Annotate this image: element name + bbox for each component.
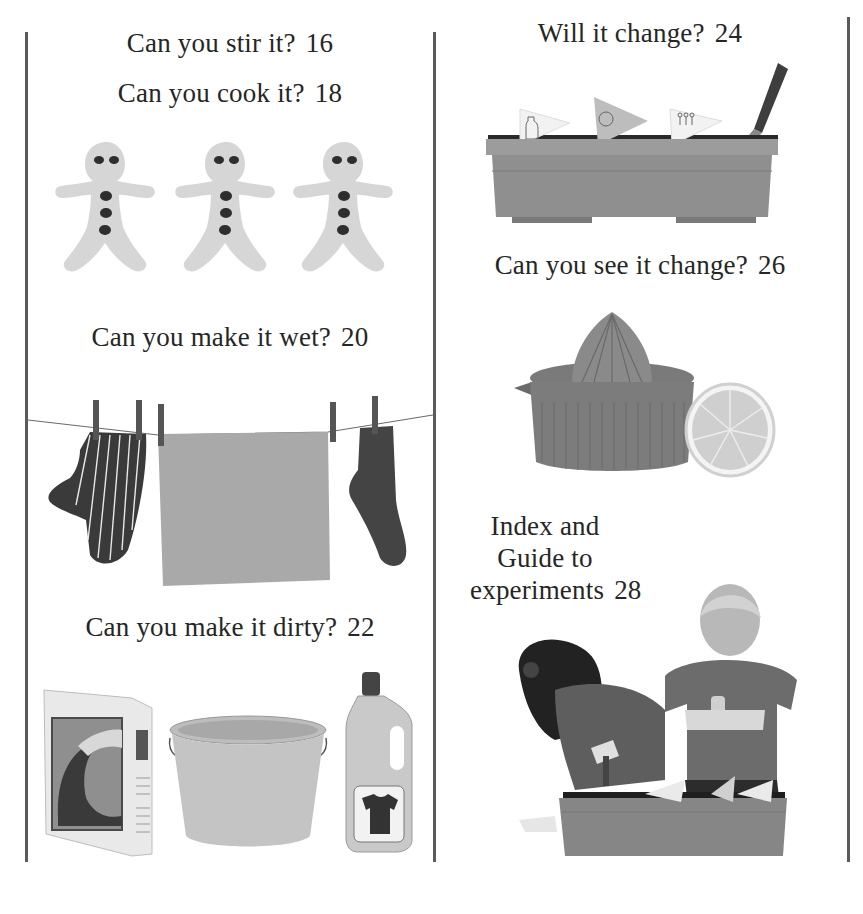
entry-page-number: 20 (341, 322, 368, 352)
column-rule-right (847, 17, 850, 862)
oven-mitt-icon (48, 432, 146, 564)
entry-make-it-dirty[interactable]: Can you make it dirty?22 (30, 612, 430, 643)
gingerbread-man-icon (175, 142, 275, 271)
clothespin-icon (136, 400, 142, 440)
entry-title: Can you make it wet? (92, 322, 331, 352)
sock-icon (349, 426, 406, 566)
lemon-half-icon (686, 384, 774, 476)
entry-page-number: 18 (315, 78, 342, 108)
gingerbread-man-icon (55, 142, 155, 271)
entry-make-it-wet[interactable]: Can you make it wet?20 (30, 322, 430, 353)
entry-title: Can you cook it? (118, 78, 305, 108)
planter-box-illustration (482, 55, 802, 230)
dish-towel-icon (158, 432, 330, 586)
entry-page-number: 24 (715, 18, 742, 48)
entry-page-number: 26 (758, 250, 785, 280)
entry-page-number: 16 (306, 28, 333, 58)
clothespin-icon (330, 402, 336, 442)
entry-title: Can you see it change? (495, 250, 748, 280)
bucket-icon (169, 716, 326, 847)
juicer-illustration (512, 312, 777, 482)
entry-title: Can you stir it? (127, 28, 296, 58)
entry-title-line-1: Index and (470, 510, 620, 542)
gingerbread-man-icon (293, 142, 393, 271)
trowel-icon (744, 63, 788, 145)
detergent-bottle-icon (346, 672, 412, 852)
clothespin-icon (372, 396, 378, 434)
cleaning-items-illustration (40, 668, 420, 858)
entry-title: Can you make it dirty? (85, 612, 337, 642)
entry-will-it-change[interactable]: Will it change?24 (440, 18, 840, 49)
entry-stir-it[interactable]: Can you stir it?16 (30, 28, 430, 59)
planter-box-icon (559, 776, 787, 856)
entry-page-number: 22 (347, 612, 374, 642)
column-rule-middle (433, 32, 436, 862)
clothespin-icon (93, 400, 99, 440)
entry-see-it-change[interactable]: Can you see it change?26 (440, 250, 840, 281)
detergent-box-icon (44, 690, 152, 856)
gingerbread-men-illustration (55, 138, 405, 283)
children-planting-illustration (515, 580, 805, 865)
entry-cook-it[interactable]: Can you cook it?18 (30, 78, 430, 109)
entry-title: Will it change? (538, 18, 705, 48)
clothesline-illustration (28, 390, 433, 590)
clothespin-icon (158, 404, 164, 446)
entry-title-line-2: Guide to (470, 542, 620, 574)
citrus-juicer-icon (514, 312, 694, 471)
